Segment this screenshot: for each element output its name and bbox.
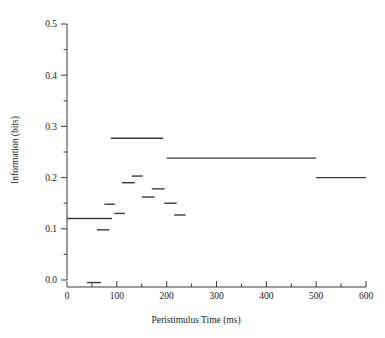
x-axis-tick-label: 300 xyxy=(209,291,224,301)
x-axis-tick-label: 600 xyxy=(359,291,374,301)
y-axis-tick-label: 0.5 xyxy=(45,19,57,29)
x-axis-title: Peristimulus Time (ms) xyxy=(151,315,240,326)
x-axis-tick-label: 400 xyxy=(259,291,274,301)
x-axis-tick-label: 200 xyxy=(160,291,175,301)
y-axis-tick-label: 0.1 xyxy=(45,224,57,234)
chart-canvas: 0.00.10.20.30.40.5 0100200300400500600 P… xyxy=(0,0,385,338)
x-axis: 0100200300400500600 xyxy=(65,281,374,301)
y-axis-tick-label: 0.0 xyxy=(45,275,57,285)
y-axis: 0.00.10.20.30.40.5 xyxy=(45,19,67,285)
data-segments xyxy=(67,138,366,282)
figure-panel: 0.00.10.20.30.40.5 0100200300400500600 P… xyxy=(0,0,385,338)
y-axis-tick-label: 0.4 xyxy=(45,71,57,81)
x-axis-tick-label: 500 xyxy=(309,291,324,301)
y-axis-tick-label: 0.3 xyxy=(45,122,57,132)
x-axis-tick-label: 0 xyxy=(65,291,70,301)
y-axis-title: Information (bits) xyxy=(10,116,21,184)
y-axis-tick-label: 0.2 xyxy=(45,173,57,183)
x-axis-tick-label: 100 xyxy=(110,291,125,301)
